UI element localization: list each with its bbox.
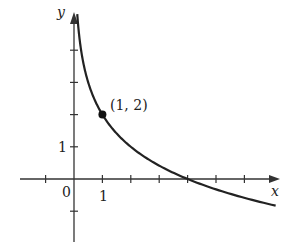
x-axis-label: x <box>271 184 279 198</box>
function-curve <box>77 14 275 206</box>
plot-svg <box>0 0 297 251</box>
y-axis-label: y <box>57 5 65 19</box>
axes <box>20 12 280 242</box>
chart-area: y x 0 1 1 (1, 2) <box>0 0 297 251</box>
y-tick-label-1: 1 <box>58 140 67 154</box>
x-tick-label-1: 1 <box>99 189 108 203</box>
point-marker <box>98 111 106 119</box>
x-axis-arrow-icon <box>269 175 280 183</box>
point-label: (1, 2) <box>110 98 148 112</box>
origin-label: 0 <box>62 185 71 199</box>
